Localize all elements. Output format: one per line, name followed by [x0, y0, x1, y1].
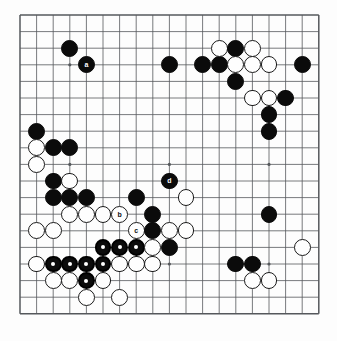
stone-marker-dot [101, 262, 105, 266]
stone-white-labeled[interactable]: c [128, 222, 145, 239]
stone-white[interactable] [244, 40, 261, 57]
stone-white[interactable] [178, 189, 195, 206]
stone-black-marked[interactable] [111, 239, 128, 256]
stone-white[interactable] [261, 90, 278, 107]
stone-white[interactable] [261, 56, 278, 73]
go-board-diagram: adbc [0, 0, 337, 341]
stone-white[interactable] [144, 256, 161, 273]
stone-white[interactable] [211, 40, 228, 57]
stone-white[interactable] [261, 272, 278, 289]
stone-black[interactable] [45, 173, 62, 190]
stone-black[interactable] [194, 56, 211, 73]
stone-marker-dot [51, 262, 55, 266]
stone-white[interactable] [28, 139, 45, 156]
stone-white[interactable] [61, 173, 78, 190]
stone-black[interactable] [161, 56, 178, 73]
stone-white-labeled[interactable]: b [111, 206, 128, 223]
stone-white[interactable] [28, 222, 45, 239]
stone-white[interactable] [28, 256, 45, 273]
stone-white[interactable] [45, 222, 62, 239]
stone-black[interactable] [144, 222, 161, 239]
stone-black[interactable] [261, 106, 278, 123]
stone-black-marked[interactable] [95, 256, 112, 273]
stone-marker-dot [134, 245, 138, 249]
stone-black[interactable] [61, 40, 78, 57]
stone-white[interactable] [128, 256, 145, 273]
stone-marker-dot [84, 262, 88, 266]
stone-white[interactable] [95, 206, 112, 223]
stone-layer: adbc [0, 0, 337, 341]
stone-black[interactable] [28, 123, 45, 140]
stone-black-marked[interactable] [78, 256, 95, 273]
stone-black-marked[interactable] [95, 239, 112, 256]
stone-white[interactable] [161, 222, 178, 239]
stone-black[interactable] [244, 256, 261, 273]
stone-black[interactable] [227, 73, 244, 90]
stone-white[interactable] [95, 272, 112, 289]
stone-black[interactable] [261, 206, 278, 223]
stone-black-marked[interactable] [45, 256, 62, 273]
stone-black-labeled[interactable]: d [161, 173, 178, 190]
stone-marker-dot [101, 245, 105, 249]
stone-marker-dot [68, 262, 72, 266]
stone-white[interactable] [111, 256, 128, 273]
stone-black-labeled[interactable]: a [78, 56, 95, 73]
stone-black[interactable] [261, 123, 278, 140]
stone-marker-dot [118, 245, 122, 249]
stone-black[interactable] [277, 90, 294, 107]
stone-black[interactable] [45, 189, 62, 206]
stone-black[interactable] [227, 40, 244, 57]
stone-white[interactable] [78, 206, 95, 223]
stone-black[interactable] [294, 56, 311, 73]
stone-white[interactable] [294, 239, 311, 256]
stone-black[interactable] [211, 56, 228, 73]
stone-label: a [84, 61, 88, 68]
stone-black-marked[interactable] [61, 256, 78, 273]
stone-label: c [134, 227, 138, 234]
stone-black-marked[interactable] [78, 272, 95, 289]
stone-label: b [117, 210, 121, 217]
stone-black[interactable] [144, 206, 161, 223]
stone-white[interactable] [244, 56, 261, 73]
stone-black-marked[interactable] [128, 239, 145, 256]
stone-white[interactable] [244, 272, 261, 289]
stone-black[interactable] [61, 139, 78, 156]
stone-white[interactable] [244, 90, 261, 107]
stone-white[interactable] [61, 272, 78, 289]
stone-white[interactable] [144, 239, 161, 256]
stone-white[interactable] [227, 56, 244, 73]
stone-black[interactable] [78, 189, 95, 206]
stone-black[interactable] [61, 189, 78, 206]
stone-marker-dot [84, 279, 88, 283]
stone-label: d [167, 177, 171, 184]
stone-white[interactable] [178, 222, 195, 239]
stone-black[interactable] [45, 139, 62, 156]
stone-white[interactable] [78, 289, 95, 306]
stone-white[interactable] [28, 156, 45, 173]
stone-black[interactable] [128, 189, 145, 206]
stone-white[interactable] [61, 206, 78, 223]
stone-white[interactable] [111, 289, 128, 306]
stone-black[interactable] [227, 256, 244, 273]
stone-black[interactable] [161, 239, 178, 256]
stone-white[interactable] [45, 272, 62, 289]
